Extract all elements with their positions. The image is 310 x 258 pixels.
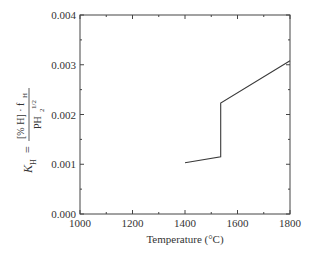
y-tick-label: 0.003 [51, 59, 76, 71]
y-title-numerator: [% H] · f [15, 102, 26, 139]
y-axis-tick-labels: 0.0000.0010.0020.0030.004 [51, 9, 76, 220]
chart: 10001200140016001800 0.0000.0010.0020.00… [0, 0, 310, 258]
y-axis-title: K H = [% H] · f H PH 2 1/2 [15, 88, 46, 174]
x-tick-label: 1200 [122, 217, 145, 229]
x-tick-label: 1400 [174, 217, 197, 229]
x-axis-ticks [80, 15, 290, 214]
y-title-equals: = [21, 146, 35, 153]
y-tick-label: 0.002 [51, 109, 76, 121]
y-title-numerator-sub: H [21, 93, 29, 98]
x-tick-label: 1800 [279, 217, 302, 229]
x-axis-title: Temperature (°C) [146, 233, 224, 246]
plot-frame [80, 15, 290, 214]
y-title-denominator-sup: 1/2 [30, 100, 38, 109]
y-title-denominator: PH [32, 116, 43, 129]
data-line [185, 61, 290, 163]
x-axis-tick-labels: 10001200140016001800 [69, 217, 302, 229]
y-tick-label: 0.004 [51, 9, 76, 21]
y-axis-ticks [80, 15, 290, 214]
y-tick-label: 0.001 [51, 158, 76, 170]
y-title-denominator-sub: 2 [38, 108, 46, 112]
x-tick-label: 1600 [227, 217, 250, 229]
y-tick-label: 0.000 [51, 208, 76, 220]
y-title-lhs-sub: H [29, 159, 38, 165]
